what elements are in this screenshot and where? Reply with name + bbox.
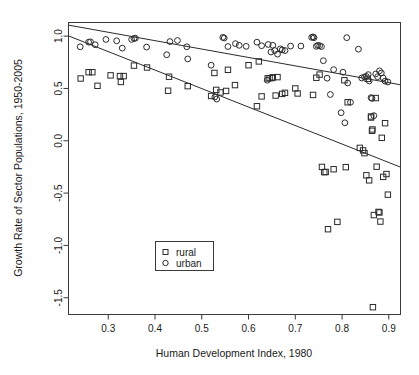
- y-tick-label: -1.0: [53, 236, 64, 254]
- y-tick-label: 1.0: [53, 29, 64, 43]
- y-tick-label: -1.5: [53, 289, 64, 307]
- x-tick-label: 0.8: [335, 323, 349, 334]
- legend-label-rural: rural: [176, 247, 196, 258]
- x-tick-label: 0.7: [288, 323, 302, 334]
- y-tick-label: 0.0: [53, 133, 64, 147]
- chart-container: 0.30.40.50.60.70.80.9 1.00.50.0-0.5-1.0-…: [0, 0, 419, 375]
- y-axis-title: Growth Rate of Sector Populations, 1950-…: [12, 59, 24, 277]
- x-tick-label: 0.5: [195, 323, 209, 334]
- scatter-plot: 0.30.40.50.60.70.80.9 1.00.50.0-0.5-1.0-…: [0, 0, 419, 375]
- x-axis-title: Human Development Index, 1980: [156, 347, 313, 359]
- x-tick-label: 0.6: [242, 323, 256, 334]
- legend-label-urban: urban: [176, 258, 202, 269]
- x-tick-label: 0.3: [101, 323, 115, 334]
- x-tick-label: 0.4: [148, 323, 162, 334]
- legend[interactable]: rural urban: [156, 242, 214, 271]
- y-tick-label: 0.5: [53, 81, 64, 95]
- y-tick-label: -0.5: [53, 184, 64, 202]
- x-tick-label: 0.9: [382, 323, 396, 334]
